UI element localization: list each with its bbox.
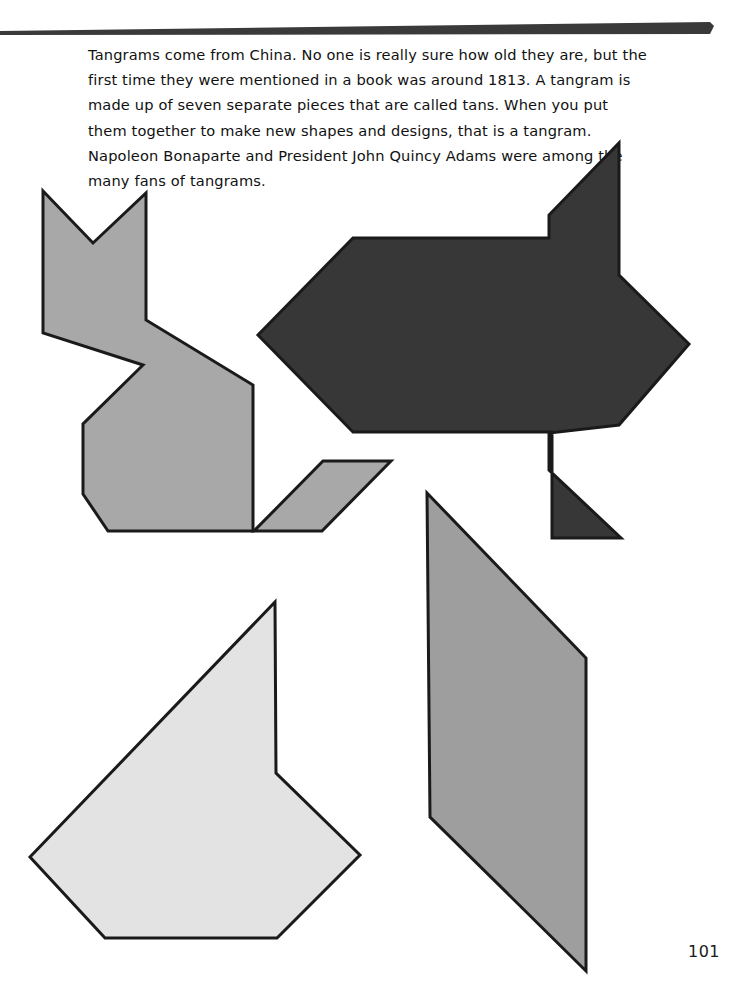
gray-tall-parallelogram-tangram-shape[interactable]: [427, 493, 586, 971]
worksheet-page: Tangrams come from China. No one is real…: [0, 0, 743, 1000]
light-gray-pentagon-tangram-shape[interactable]: [30, 602, 360, 938]
tangram-shapes-canvas: [0, 0, 743, 1000]
gray-parallelogram-tail-shape[interactable]: [254, 461, 391, 531]
gray-cat-tangram-shape[interactable]: [43, 191, 253, 531]
page-number: 101: [688, 942, 720, 961]
